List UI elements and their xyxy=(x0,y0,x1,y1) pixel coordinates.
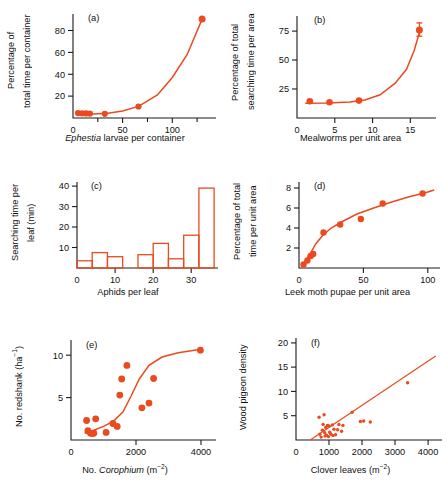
panel-c-x-axis-label-text: Aphids per leaf xyxy=(97,287,158,297)
panel-a-y-axis-label-b: total time per container xyxy=(22,2,44,120)
panel-e-x-axis-label-sup: −2 xyxy=(157,463,165,470)
panel-f-x-axis-label: Clover leaves (m−2) xyxy=(258,465,443,475)
panel-a-y-axis-label-line2: total time per container xyxy=(22,14,32,107)
panel-c-y-axis-label-line2: leaf (min) xyxy=(26,204,36,242)
panel-e-y-axis-label: No. redshank (ha−1) xyxy=(14,326,36,446)
panel-f-x-axis-label-text: Clover leaves (m xyxy=(311,465,380,475)
panel-c-xtick-30: 30 xyxy=(186,275,196,285)
panel-c-ytick-20: 20 xyxy=(59,222,69,232)
panel-f-plot: 5 10 15 20 0 1000 2000 3000 4000 (f) xyxy=(262,326,447,458)
panel-d-ytick-8: 8 xyxy=(286,183,291,193)
panel-d-y-axis-label-b: time per unit area xyxy=(248,172,270,270)
panel-d-y-axis-label-line1: Percentage of total xyxy=(232,182,242,259)
panel-c-x-axis-label: Aphids per leaf xyxy=(38,287,218,297)
panel-e-y-axis-label-text: No. redshank (ha xyxy=(14,356,24,426)
panel-d-data-points xyxy=(300,190,426,267)
panel-f-xtick-2000: 2000 xyxy=(352,447,372,457)
panel-d-x-axis-label: Leek moth pupae per unit area xyxy=(250,287,445,297)
panel-a-plot: 20 40 60 80 0 50 100 (a) xyxy=(44,4,224,128)
panel-a-ytick-20: 20 xyxy=(55,91,65,101)
panel-f-xtick-1000: 1000 xyxy=(319,447,339,457)
panel-c-plot: 10 20 30 40 0 10 20 30 (c) xyxy=(46,172,224,284)
panel-e-ytick-5: 5 xyxy=(58,393,63,403)
panel-f-data-points xyxy=(317,381,409,439)
panel-f-xtick-4000: 4000 xyxy=(418,447,438,457)
panel-f-ytick-5: 5 xyxy=(283,411,288,421)
panel-b-y-axis-label-line2: searching time per area xyxy=(246,14,256,111)
panel-a-data-points xyxy=(75,16,206,117)
panel-c-xtick-20: 20 xyxy=(148,275,158,285)
panel-b-y-axis-label-b: searching time per area xyxy=(246,0,268,124)
panel-a-x-axis-label-rest: larvae per container xyxy=(101,133,185,143)
panel-d-xtick-50: 50 xyxy=(358,275,368,285)
panel-c-xtick-10: 10 xyxy=(110,275,120,285)
panel-c-ytick-10: 10 xyxy=(59,243,69,253)
panel-c-y-axis-label-line1: Searching time per xyxy=(10,183,20,260)
panel-a-ytick-60: 60 xyxy=(55,48,65,58)
panel-d-ytick-6: 6 xyxy=(286,203,291,213)
panel-e-x-axis-label: No. Corophium (m−2) xyxy=(30,465,220,475)
panel-d-ytick-4: 4 xyxy=(286,223,291,233)
panel-d-ytick-2: 2 xyxy=(286,243,291,253)
panel-b-plot: 25 50 75 0 5 10 15 (b) xyxy=(268,4,447,128)
panel-b-tag: (b) xyxy=(314,14,325,25)
panel-f-tag: (f) xyxy=(311,337,320,348)
panel-e-data-points xyxy=(83,347,204,437)
panel-d-y-axis-label-line2: time per unit area xyxy=(248,185,258,257)
panel-a-ytick-80: 80 xyxy=(55,26,65,36)
panel-e-fit-curve xyxy=(85,349,201,433)
panel-d-plot: 2 4 6 8 0 50 100 (d) xyxy=(268,170,447,286)
panel-e-x-axis-label-suffix: (m xyxy=(144,465,157,475)
panel-c-ytick-40: 40 xyxy=(59,181,69,191)
panel-b-y-axis-label-line1: Percentage of total xyxy=(230,23,240,100)
panel-c-xtick-0: 0 xyxy=(74,275,79,285)
panel-b-ytick-75: 75 xyxy=(279,26,289,36)
panel-d: Percentage of total time per unit area 2… xyxy=(224,150,447,300)
panel-b-data-points xyxy=(307,26,423,105)
panel-f-xtick-0: 0 xyxy=(293,447,298,457)
panel-e-y-axis-label-sup: −1 xyxy=(11,349,18,357)
panel-d-fit-curve xyxy=(303,190,434,265)
panel-c-tag: (c) xyxy=(91,180,102,191)
panel-d-tag: (d) xyxy=(314,180,325,191)
panel-d-xtick-0: 0 xyxy=(296,275,301,285)
panel-f-ytick-15: 15 xyxy=(278,362,288,372)
panel-f: Wood pigeon density 5 10 15 20 0 1000 20… xyxy=(224,300,447,490)
panel-f-xtick-3000: 3000 xyxy=(385,447,405,457)
panel-a: Percentage of total time per container 2… xyxy=(0,0,224,150)
panel-a-y-axis-label-line1: Percentage of xyxy=(6,31,16,88)
panel-e-tag: (e) xyxy=(86,339,97,350)
panel-b-ytick-25: 25 xyxy=(279,84,289,94)
panel-d-xtick-100: 100 xyxy=(420,275,435,285)
panel-e-x-axis-label-prefix: No. xyxy=(82,465,99,475)
panel-a-x-axis-label-genus: Ephestia xyxy=(65,133,101,143)
panel-e-x-axis-label-genus: Corophium xyxy=(99,465,144,475)
panel-c: Searching time per leaf (min) 10 20 30 4… xyxy=(0,150,224,300)
panel-e-xtick-0: 0 xyxy=(68,447,73,457)
panel-f-y-axis-label: Wood pigeon density xyxy=(238,328,260,446)
panel-f-ytick-10: 10 xyxy=(278,387,288,397)
panel-e-x-axis-label-end: ) xyxy=(165,465,168,475)
panel-f-ytick-20: 20 xyxy=(278,338,288,348)
panel-b-fit-curve xyxy=(305,30,420,103)
figure-panel-grid: Percentage of total time per container 2… xyxy=(0,0,447,490)
panel-a-tag: (a) xyxy=(88,12,99,23)
panel-b-ytick-50: 50 xyxy=(279,55,289,65)
panel-c-histogram-bars xyxy=(77,188,214,268)
panel-e: No. redshank (ha−1) 5 10 0 2000 4000 (e) xyxy=(0,300,224,490)
panel-b-x-axis-label-text: Mealworms per unit area xyxy=(300,133,401,143)
panel-b-x-axis-label: Mealworms per unit area xyxy=(258,133,443,143)
panel-f-y-axis-label-text: Wood pigeon density xyxy=(238,344,248,430)
panel-a-fit-curve xyxy=(77,19,202,114)
panel-d-x-axis-label-text: Leek moth pupae per unit area xyxy=(285,287,410,297)
panel-a-x-axis-label: Ephestia larvae per container xyxy=(30,133,220,143)
panel-e-plot: 5 10 0 2000 4000 (e) xyxy=(38,326,224,458)
panel-c-y-axis-label-b: leaf (min) xyxy=(26,184,48,262)
panel-e-xtick-2000: 2000 xyxy=(126,447,146,457)
panel-a-ytick-40: 40 xyxy=(55,70,65,80)
panel-b: Percentage of total searching time per a… xyxy=(224,0,447,150)
panel-f-x-axis-label-end: ) xyxy=(387,465,390,475)
panel-c-ytick-30: 30 xyxy=(59,202,69,212)
panel-e-y-axis-label-end: ) xyxy=(14,345,24,348)
panel-e-ytick-10: 10 xyxy=(53,351,63,361)
